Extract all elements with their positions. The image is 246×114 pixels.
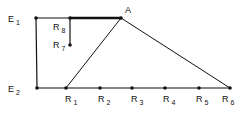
node-e1	[34, 16, 38, 20]
node-r2	[98, 86, 102, 90]
label-r7: R7	[53, 40, 66, 52]
edge-e1-e2	[36, 18, 37, 88]
node-e2	[35, 86, 39, 90]
label-r4: R4	[163, 94, 176, 106]
label-r6: R6	[222, 94, 235, 106]
network-diagram: E1E2AR8R7R1R2R3R4R5R6	[0, 0, 246, 114]
label-r5: R5	[196, 94, 209, 106]
node-r4	[163, 86, 167, 90]
node-r8	[68, 16, 72, 20]
label-e2: E2	[8, 84, 20, 96]
label-r8: R8	[53, 22, 66, 34]
label-r3: R3	[131, 94, 144, 106]
label-e1: E1	[8, 14, 20, 26]
label-r2: R2	[98, 94, 111, 106]
node-r6	[228, 86, 232, 90]
labels: E1E2AR8R7R1R2R3R4R5R6	[8, 5, 235, 106]
edge-a-r6	[121, 18, 230, 88]
node-a	[119, 16, 123, 20]
node-r3	[130, 86, 134, 90]
label-r1: R1	[65, 94, 78, 106]
label-a: A	[125, 5, 131, 15]
node-r1	[64, 86, 68, 90]
edge-r1-a	[66, 18, 121, 88]
node-r5	[197, 86, 201, 90]
node-r7	[68, 43, 72, 47]
